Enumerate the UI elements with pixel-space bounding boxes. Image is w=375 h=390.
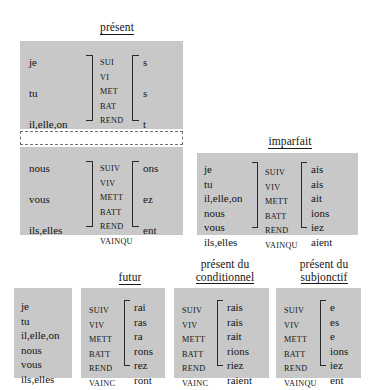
bracket-conditionnel xyxy=(217,300,223,366)
futur-ending-column: rai ras ra rons rez ront xyxy=(134,297,153,384)
present-plural-pronoun-column: nous vous ils,elles xyxy=(29,158,62,251)
ending: ez xyxy=(143,193,153,205)
subjonctif-ending-column: e es e ions iez ent xyxy=(330,297,348,384)
bracket-futur xyxy=(124,300,130,366)
panel-conditionnel: SUIV VIV METT BATT REND VAINC rais rais … xyxy=(174,288,269,378)
pronoun: ils,elles xyxy=(21,373,54,385)
bracket-present-singular-left xyxy=(86,55,93,121)
stem: VAINQU xyxy=(265,241,298,250)
bracket-present-plural-right xyxy=(132,161,139,227)
conjugation-chart: présent je tu il,elle,on SUI VI MET BAT … xyxy=(0,0,375,390)
pronoun: ils,elles xyxy=(29,224,62,236)
shared-pronoun-column: je tu il,elle,on nous vous ils,elles xyxy=(21,296,60,383)
stem: VAINQU xyxy=(284,379,317,388)
ending: ons xyxy=(143,162,158,174)
pronoun: vous xyxy=(29,193,50,205)
present-singular-stem-column: SUI VI MET BAT REND VAINC xyxy=(100,51,126,138)
bracket-subjonctif xyxy=(320,300,326,366)
ending: s xyxy=(143,56,147,68)
heading-imparfait: imparfait xyxy=(235,136,345,149)
stem: VAINQU xyxy=(100,237,133,246)
heading-futur-label: futur xyxy=(119,272,142,285)
bracket-imparfait-right xyxy=(301,162,307,228)
heading-futur: futur xyxy=(95,272,165,285)
ending: raient xyxy=(227,374,252,386)
panel-shared-pronouns: je tu il,elle,on nous vous ils,elles xyxy=(14,288,72,378)
pronoun: je xyxy=(29,56,37,68)
heading-conditionnel: présent du conditionnel xyxy=(178,259,272,284)
heading-present: présent xyxy=(62,22,172,35)
bracket-present-singular-right xyxy=(132,55,139,121)
panel-present-plural: nous vous ils,elles SUIV VIV METT BATT R… xyxy=(20,147,183,235)
imparfait-stem-column: SUIV VIV METT BATT REND VAINQU xyxy=(265,161,298,248)
pronoun: ils,elles xyxy=(204,236,237,248)
bracket-present-plural-left xyxy=(86,161,93,227)
present-separator-gap xyxy=(20,131,183,145)
ending: ront xyxy=(134,374,152,386)
ending: ent xyxy=(330,374,343,386)
imparfait-ending-column: ais ais ait ions iez aient xyxy=(311,159,332,246)
panel-futur: SUIV VIV METT BATT REND VAINC rai ras ra… xyxy=(81,288,165,378)
panel-imparfait: je tu il,elle,on nous vous ils,elles SUI… xyxy=(197,153,358,235)
ending: ent xyxy=(143,224,156,236)
stem: VAINC xyxy=(182,379,208,388)
ending: s xyxy=(143,87,147,99)
ending: aient xyxy=(311,236,332,248)
heading-subjonctif-line1: présent du xyxy=(277,259,371,271)
heading-conditionnel-line1: présent du xyxy=(178,259,272,271)
stem: VAINC xyxy=(89,379,115,388)
imparfait-pronoun-column: je tu il,elle,on nous vous ils,elles xyxy=(204,159,243,246)
futur-stem-column: SUIV VIV METT BATT REND VAINC xyxy=(89,299,115,386)
pronoun: tu xyxy=(29,87,38,99)
heading-subjonctif-line2: subjonctif xyxy=(301,272,348,285)
present-plural-ending-column: ons ez ent xyxy=(143,158,158,251)
heading-subjonctif: présent du subjonctif xyxy=(277,259,371,284)
ending: t xyxy=(143,118,146,130)
bracket-imparfait-left xyxy=(252,162,258,228)
heading-conditionnel-line2: conditionnel xyxy=(196,272,255,285)
pronoun: nous xyxy=(29,162,50,174)
conditionnel-stem-column: SUIV VIV METT BATT REND VAINC xyxy=(182,299,208,386)
pronoun: il,elle,on xyxy=(29,118,68,130)
panel-present-singular: je tu il,elle,on SUI VI MET BAT REND VAI… xyxy=(20,41,183,129)
panel-subjonctif: SUIV VIV METT BATT REND VAINQU e es e io… xyxy=(276,288,361,378)
heading-present-label: présent xyxy=(100,22,134,35)
present-plural-stem-column: SUIV VIV METT BATT REND VAINQU xyxy=(100,157,133,244)
subjonctif-stem-column: SUIV VIV METT BATT REND VAINQU xyxy=(284,299,317,386)
conditionnel-ending-column: rais rais rait rions riez raient xyxy=(227,297,252,384)
heading-imparfait-label: imparfait xyxy=(268,136,311,149)
